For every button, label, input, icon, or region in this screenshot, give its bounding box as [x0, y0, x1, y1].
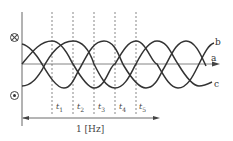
- period-arrow-right-head: [153, 116, 160, 120]
- curve-label-a: a: [211, 54, 216, 63]
- time-label-t5: t5: [139, 103, 146, 113]
- curve-b: [22, 41, 214, 88]
- period-arrow-left-head: [22, 116, 29, 120]
- curve-label-c: c: [214, 80, 219, 89]
- time-label-t4: t4: [119, 103, 126, 113]
- three-phase-waveform-diagram: [0, 0, 233, 141]
- curve-c: [22, 41, 212, 88]
- period-label: 1 [Hz]: [76, 124, 104, 134]
- into-page-symbol-icon: [10, 33, 19, 42]
- time-label-t1: t1: [56, 103, 63, 113]
- curve-label-b: b: [215, 38, 221, 47]
- time-label-t3: t3: [98, 103, 105, 113]
- out-of-page-symbol-icon: [10, 91, 19, 100]
- time-label-t2: t2: [77, 103, 84, 113]
